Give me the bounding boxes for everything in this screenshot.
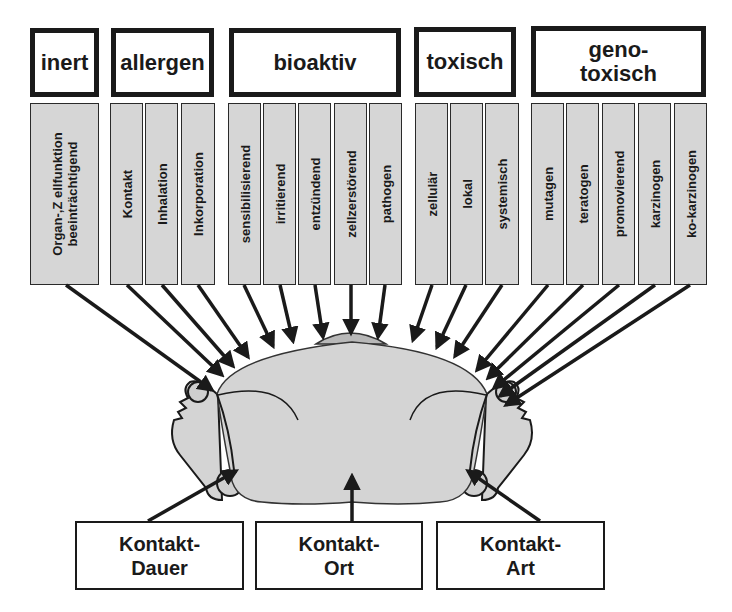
factor-label-line1: Kontakt- xyxy=(480,532,561,556)
factor-label-line1: Kontakt- xyxy=(298,532,379,556)
factor-kontakt-art: Kontakt- Art xyxy=(436,521,605,590)
factor-label-line2: Dauer xyxy=(131,556,188,580)
factor-kontakt-ort: Kontakt- Ort xyxy=(255,521,423,590)
factor-label-line2: Art xyxy=(506,556,535,580)
factor-label-line1: Kontakt- xyxy=(119,532,200,556)
factor-label-line2: Ort xyxy=(324,556,354,580)
factor-kontakt-dauer: Kontakt- Dauer xyxy=(75,521,244,590)
